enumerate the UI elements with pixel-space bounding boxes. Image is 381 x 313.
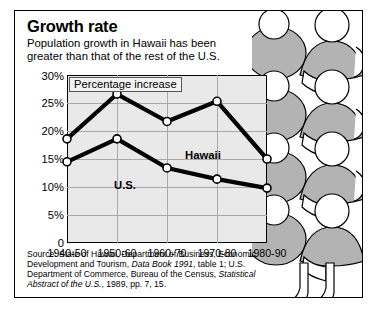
data-point-hawaii-1980-90 bbox=[263, 155, 271, 163]
subtitle: Population growth in Hawaii has been gre… bbox=[27, 37, 273, 62]
ytick-10: 10% bbox=[36, 181, 64, 193]
axis-note: Percentage increase bbox=[69, 77, 182, 92]
data-point-us-1940-50 bbox=[63, 158, 71, 166]
series-label-hawaii: Hawaii bbox=[185, 149, 221, 161]
ytick-30: 30% bbox=[36, 70, 64, 82]
source-note: Source: State of Hawaii, Department of B… bbox=[27, 249, 279, 289]
ytick-5: 5% bbox=[36, 209, 64, 221]
subtitle-line-2: greater than that of the rest of the U.S… bbox=[27, 50, 273, 63]
data-point-hawaii-1940-50 bbox=[63, 135, 71, 143]
source-part-3: , 1989, pp. 7, 15. bbox=[102, 279, 167, 289]
series-label-us: U.S. bbox=[114, 179, 136, 191]
data-lines bbox=[67, 75, 267, 243]
ytick-20: 20% bbox=[36, 125, 64, 137]
ytick-25: 25% bbox=[36, 97, 64, 109]
data-point-us-1950-60 bbox=[113, 135, 121, 143]
data-point-us-1960-70 bbox=[163, 164, 171, 172]
plot-area: Percentage increase Hawaii U.S. 0 5% 10%… bbox=[67, 75, 267, 243]
data-point-hawaii-1970-80 bbox=[213, 97, 221, 105]
data-point-us-1970-80 bbox=[213, 175, 221, 183]
subtitle-line-1: Population growth in Hawaii has been bbox=[27, 37, 273, 50]
data-markers bbox=[63, 90, 271, 192]
data-point-us-1980-90 bbox=[263, 184, 271, 192]
source-italic-1: Data Book 1991 bbox=[131, 259, 193, 269]
chart-figure: Growth rate Population growth in Hawaii … bbox=[14, 10, 363, 298]
page-title: Growth rate bbox=[27, 17, 117, 36]
data-point-hawaii-1960-70 bbox=[163, 117, 171, 125]
ytick-15: 15% bbox=[36, 153, 64, 165]
